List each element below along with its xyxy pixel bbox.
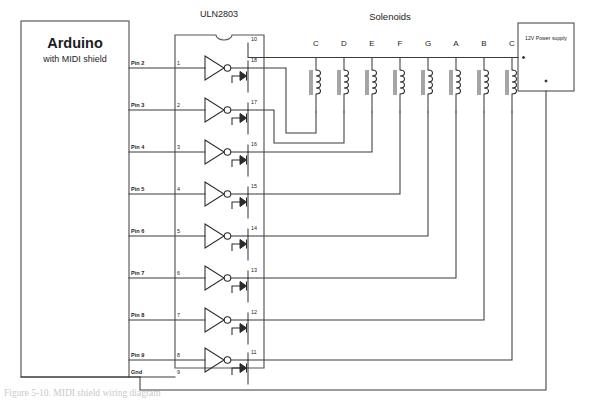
ic-out-pin-number-1: 18 xyxy=(251,57,257,63)
arduino-subtitle: with MIDI shield xyxy=(42,54,107,64)
channel-6: Pin 7 6 13 xyxy=(129,112,456,302)
arduino-pin-label-2: Pin 3 xyxy=(131,102,144,108)
power-supply-label: 12V Power supply xyxy=(525,35,567,41)
channel-5: Pin 6 5 14 xyxy=(129,112,428,260)
solenoid-D-2: D xyxy=(338,39,349,112)
solenoid-G-5: G xyxy=(422,39,433,112)
ic-out-pin-number-3: 16 xyxy=(251,141,257,147)
ic-pin-number-8: 8 xyxy=(177,352,180,358)
arduino-pin-label-4: Pin 5 xyxy=(131,186,144,192)
solenoid-C-8: C xyxy=(506,39,517,112)
channel-8: Pin 9 8 11 xyxy=(129,112,512,384)
solenoid-C-1: C xyxy=(310,39,321,112)
solenoid-label-8: C xyxy=(509,39,515,48)
common-rail-wire: 10 xyxy=(248,36,518,58)
power-supply-block: 12V Power supply xyxy=(518,23,574,91)
ic-pin-number-9: 9 xyxy=(177,369,180,375)
arduino-pin-label-1: Pin 2 xyxy=(131,60,144,66)
arduino-pin-label-8: Pin 9 xyxy=(131,352,144,358)
channel-3: Pin 4 3 16 xyxy=(129,112,372,176)
ic-out-pin-number-6: 13 xyxy=(251,267,257,273)
arduino-pin-label-3: Pin 4 xyxy=(131,144,145,150)
solenoid-E-3: E xyxy=(366,39,377,112)
solenoid-label-6: A xyxy=(453,39,459,48)
ic-out-pin-number-8: 11 xyxy=(251,349,257,355)
ic-out-pin-number-5: 14 xyxy=(251,225,257,231)
ic-out-pin-number-4: 15 xyxy=(251,183,257,189)
ic-pin-number-1: 1 xyxy=(177,60,180,66)
schematic-sheet: Arduino with MIDI shield ULN2803 Solenoi… xyxy=(0,0,592,403)
solenoid-label-5: G xyxy=(425,39,431,48)
ic-pin-number-2: 2 xyxy=(177,102,180,108)
ic-out-pin-number-2: 17 xyxy=(251,99,257,105)
solenoid-B-7: B xyxy=(478,39,489,112)
ground-wire: Gnd 9 xyxy=(21,91,546,390)
figure-caption: Figure 5-10. MIDI shield wiring diagram xyxy=(4,388,564,398)
channel-2: Pin 3 2 17 xyxy=(129,98,344,143)
solenoid-label-7: B xyxy=(481,39,486,48)
ic-label: ULN2803 xyxy=(200,9,238,19)
solenoid-label-4: F xyxy=(398,39,403,48)
arduino-title: Arduino xyxy=(47,35,103,51)
solenoid-F-4: F xyxy=(394,39,405,112)
arduino-pin-label-5: Pin 6 xyxy=(131,228,144,234)
ic-pin-number-7: 7 xyxy=(177,312,180,318)
solenoid-A-6: A xyxy=(450,39,461,112)
ic-pin-number-4: 4 xyxy=(177,186,180,192)
solenoid-label-3: E xyxy=(369,39,374,48)
solenoids-label: Solenoids xyxy=(369,11,411,22)
channel-7: Pin 8 7 12 xyxy=(129,112,484,344)
channel-1: Pin 2 1 18 xyxy=(129,56,316,133)
arduino-pin-label-6: Pin 7 xyxy=(131,270,144,276)
ic-pin-number-3: 3 xyxy=(177,144,180,150)
solenoid-label-2: D xyxy=(341,39,347,48)
ic-pin-number-6: 6 xyxy=(177,270,180,276)
solenoid-label-1: C xyxy=(313,39,319,48)
ic-pin-number-5: 5 xyxy=(177,228,180,234)
ground-label: Gnd xyxy=(131,369,143,375)
ic-out-pin-number-7: 12 xyxy=(251,309,257,315)
ic-pin-10-number: 10 xyxy=(251,36,257,42)
arduino-block: Arduino with MIDI shield xyxy=(21,21,129,377)
arduino-pin-label-7: Pin 8 xyxy=(131,312,144,318)
